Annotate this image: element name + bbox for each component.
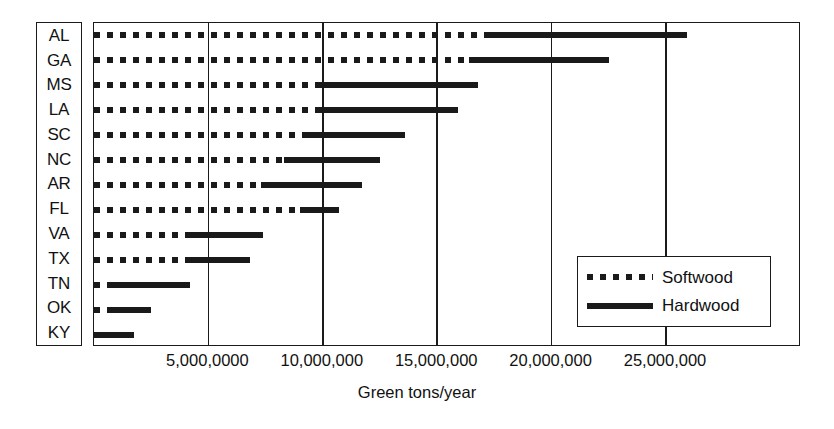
category-label-va: VA: [37, 221, 81, 246]
legend-swatch-softwood: [587, 274, 653, 280]
bar-segment-softwood-tn: [94, 282, 111, 288]
bar-row-ga: [94, 48, 799, 73]
x-axis-title: Green tons/year: [0, 384, 834, 401]
bar-segment-hardwood-sc: [302, 132, 405, 138]
bar-segment-softwood-la: [94, 107, 316, 113]
category-label-al: AL: [37, 23, 81, 48]
bar-segment-hardwood-ms: [318, 82, 478, 88]
bar-segment-hardwood-nc: [284, 157, 380, 163]
x-tick-label-2: 15,000,000: [395, 352, 478, 369]
bar-segment-softwood-tx: [94, 257, 188, 263]
bar-segment-softwood-fl: [94, 207, 300, 213]
category-label-tn: TN: [37, 271, 81, 296]
legend-item-hardwood: Hardwood: [587, 294, 761, 318]
x-tick-label-0: 5,000,0000: [166, 352, 249, 369]
category-axis-box: ALGAMSLASCNCARFLVATXTNOKKY: [36, 22, 82, 346]
bar-segment-hardwood-tn: [111, 282, 190, 288]
bar-segment-softwood-ms: [94, 82, 318, 88]
category-label-tx: TX: [37, 246, 81, 271]
bar-chart-figure: ALGAMSLASCNCARFLVATXTNOKKY SoftwoodHardw…: [0, 0, 834, 429]
category-label-ok: OK: [37, 295, 81, 320]
bar-segment-hardwood-va: [186, 232, 264, 238]
category-label-nc: NC: [37, 147, 81, 172]
bar-segment-softwood-sc: [94, 132, 302, 138]
x-axis-tick-labels: 5,000,000010,000,00015,000,00020,000,000…: [93, 352, 800, 374]
category-label-ms: MS: [37, 73, 81, 98]
bar-segment-hardwood-ar: [261, 182, 362, 188]
category-label-sc: SC: [37, 122, 81, 147]
category-label-fl: FL: [37, 196, 81, 221]
bar-row-ms: [94, 73, 799, 98]
legend-swatch-hardwood: [587, 303, 653, 309]
legend-item-softwood: Softwood: [587, 265, 761, 289]
bar-segment-hardwood-tx: [188, 257, 250, 263]
category-label-ga: GA: [37, 48, 81, 73]
x-tick-label-4: 25,000,000: [624, 352, 707, 369]
x-tick-label-1: 10,000,000: [281, 352, 364, 369]
bar-segment-softwood-al: [94, 32, 488, 38]
bar-segment-hardwood-al: [488, 32, 687, 38]
category-label-la: LA: [37, 97, 81, 122]
bar-row-nc: [94, 148, 799, 173]
bar-segment-hardwood-fl: [300, 207, 339, 213]
x-tick-label-3: 20,000,000: [509, 352, 592, 369]
bar-segment-hardwood-ok: [111, 307, 151, 313]
legend-label-softwood: Softwood: [662, 269, 733, 286]
chart-legend: SoftwoodHardwood: [577, 256, 771, 327]
bar-segment-softwood-ok: [94, 307, 111, 313]
bar-row-fl: [94, 197, 799, 222]
bar-row-sc: [94, 123, 799, 148]
bar-segment-softwood-ga: [94, 57, 469, 63]
legend-label-hardwood: Hardwood: [662, 297, 740, 314]
bar-segment-softwood-nc: [94, 157, 284, 163]
bar-row-al: [94, 23, 799, 48]
bar-segment-hardwood-ky: [94, 332, 134, 338]
bar-segment-softwood-va: [94, 232, 186, 238]
category-label-ky: KY: [37, 320, 81, 345]
bar-row-va: [94, 222, 799, 247]
bar-segment-softwood-ar: [94, 182, 261, 188]
bar-row-ar: [94, 173, 799, 198]
category-label-ar: AR: [37, 172, 81, 197]
bar-segment-hardwood-ga: [469, 57, 609, 63]
bar-segment-hardwood-la: [316, 107, 458, 113]
bar-row-la: [94, 98, 799, 123]
